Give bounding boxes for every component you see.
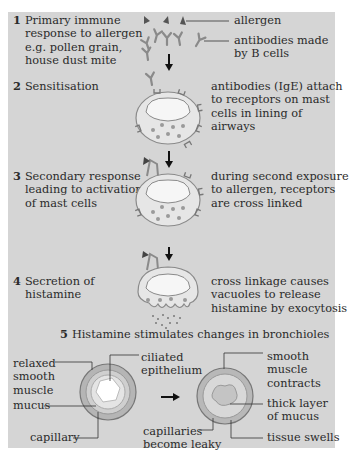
- mast-cell-sensitised: [135, 72, 202, 147]
- mast-cell-degranulating: [138, 251, 198, 329]
- bronchiole-asthma: [197, 368, 253, 424]
- histamine-granules: [152, 314, 181, 329]
- antibody-icons: [141, 29, 205, 60]
- bronchiole-normal: [80, 364, 136, 420]
- allergen-icons: [144, 16, 186, 25]
- right-arrow-icon: [173, 393, 180, 401]
- down-arrow-icons: [165, 54, 173, 261]
